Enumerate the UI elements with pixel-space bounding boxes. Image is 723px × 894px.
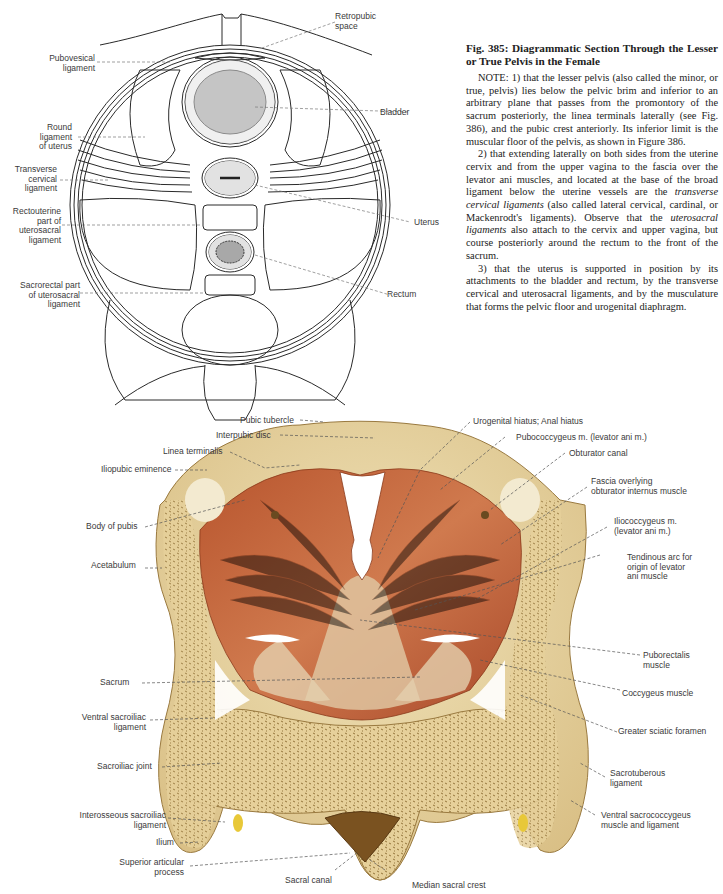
label-sacrum: Sacrum: [100, 678, 129, 688]
label-iliopubic-eminence: Iliopubic eminence: [101, 465, 171, 475]
pelvic-floor-illustration: [0, 0, 723, 894]
label-sacroiliac-joint: Sacroiliac joint: [97, 762, 152, 772]
label-pubococcygeus: Pubococcygeus m. (levator ani m.): [516, 433, 647, 443]
label-interpubic-disc: Interpubic disc: [216, 431, 271, 441]
label-median-sacral-crest: Median sacral crest: [412, 881, 486, 891]
label-fascia-obturator: Fascia overlying obturator internus musc…: [591, 477, 687, 496]
label-ventral-sacroiliac-ligament: Ventral sacroiliac ligament: [60, 713, 146, 732]
label-obturator-canal: Obturator canal: [569, 449, 628, 459]
label-coccygeus: Coccygeus muscle: [622, 689, 693, 699]
label-pubic-tubercle: Pubic tubercle: [240, 416, 294, 426]
label-greater-sciatic-foramen: Greater sciatic foramen: [618, 727, 706, 737]
label-linea-terminalis: Linea terminalis: [163, 447, 223, 457]
label-tendinous-arc: Tendinous arc for origin of levator ani …: [627, 553, 692, 582]
label-ilium: Ilium: [156, 838, 174, 848]
label-urogenital-hiatus: Urogenital hiatus; Anal hiatus: [473, 417, 583, 427]
label-puborectalis: Puborectalis muscle: [643, 651, 690, 670]
label-interosseous-sacroiliac-ligament: Interosseous sacroiliac ligament: [50, 811, 166, 830]
label-iliococcygeus: Iliococcygeus m. (levator ani m.): [614, 517, 677, 536]
label-sacrotuberous-ligament: Sacrotuberous ligament: [610, 769, 665, 788]
label-body-of-pubis: Body of pubis: [86, 522, 138, 532]
label-sacral-canal: Sacral canal: [285, 876, 332, 886]
label-ventral-sacrococcygeus: Ventral sacrococcygeus muscle and ligame…: [601, 811, 691, 830]
label-superior-articular-process: Superior articular process: [100, 858, 184, 877]
label-acetabulum: Acetabulum: [91, 561, 136, 571]
